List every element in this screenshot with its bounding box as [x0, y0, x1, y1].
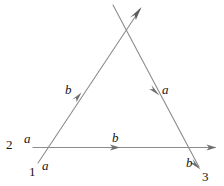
- arrow-apex-tip-icon: [130, 7, 142, 20]
- right-leg-segment: [113, 5, 199, 167]
- edge-label-b-left-leg: b: [65, 83, 72, 96]
- vertex-label-3: 3: [202, 170, 209, 183]
- vertex-label-1: 1: [29, 165, 36, 178]
- vertex-label-2: 2: [6, 138, 13, 151]
- edge-label-b-base: b: [112, 131, 119, 144]
- edge-label-b-lower-right: b: [186, 156, 193, 169]
- left-leg-segment: [38, 10, 140, 164]
- edge-label-a-right-leg: a: [162, 83, 169, 96]
- vector-triangle-figure: 2 1 3 a a b a b b: [0, 0, 224, 186]
- edge-label-a-upper-left: a: [24, 132, 31, 145]
- edge-label-a-lower-left: a: [42, 159, 49, 172]
